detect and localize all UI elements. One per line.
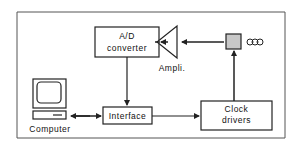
ad-label-line1: A/D [95, 31, 159, 41]
computer-label: Computer [22, 124, 78, 134]
clock-label-line1: Clock [201, 104, 272, 114]
ccd-label-icon [247, 39, 263, 45]
interface-label: Interface [103, 111, 152, 121]
amplifier-label: Ampli. [152, 63, 192, 73]
clock-drivers-label: Clock drivers [201, 104, 272, 125]
computer-icon [33, 79, 66, 119]
ad-converter-label: A/D converter [95, 31, 159, 53]
ccd-sensor-icon [226, 34, 241, 49]
ad-label-line2: converter [95, 43, 159, 53]
clock-label-line2: drivers [201, 115, 272, 125]
